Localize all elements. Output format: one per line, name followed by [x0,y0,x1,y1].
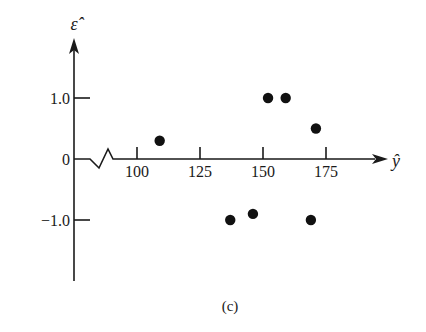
data-point [263,93,273,103]
y-tick-label: 0 [62,151,70,168]
x-axis-label: ŷ [390,151,400,171]
y-axis-label: ε̂ [70,14,84,34]
y-tick-label: 1.0 [50,90,70,107]
x-axis-ticks: 100125150175 [125,147,338,180]
x-axis: ŷ 100125150175 [74,147,400,180]
data-point [306,215,316,225]
data-point [154,136,164,146]
data-point [225,215,235,225]
y-tick-label: −1.0 [41,212,70,229]
y-axis: ε̂ 1.00−1.0 [41,14,90,281]
data-point [311,123,321,133]
data-point [280,93,290,103]
residual-scatter-plot: ε̂ 1.00−1.0 ŷ 100125150175 (c) [0,0,426,332]
data-point [248,209,258,219]
x-tick-label: 175 [314,163,338,180]
x-tick-label: 150 [251,163,275,180]
x-tick-label: 125 [188,163,212,180]
x-tick-label: 100 [125,163,149,180]
figure-caption: (c) [222,298,239,315]
